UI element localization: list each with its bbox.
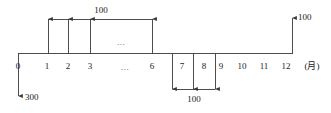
inflow-series-ellipsis: ... [117,38,125,47]
bottom-bracket-amount-label: 100 [187,95,201,104]
axis-tick-label-3: 3 [88,62,93,71]
axis-tick-label-12: 12 [282,62,291,71]
timeline-graphic [0,0,331,113]
axis-tick-label-11: 11 [260,62,269,71]
axis-tick-label-ellipsis: ... [121,63,129,72]
axis-tick-label-2: 2 [66,62,71,71]
axis-tick-label-6: 6 [150,62,155,71]
axis-unit-label: (月) [305,62,320,71]
terminal-inflow-amount-label: 100 [298,13,312,22]
axis-tick-label-1: 1 [45,62,50,71]
cash-flow-diagram: 0 1 2 3 ... 6 7 8 9 10 11 12 (月) ... 100… [0,0,331,113]
top-bracket-amount-label: 100 [94,6,108,15]
axis-tick-label-9: 9 [219,62,224,71]
axis-tick-label-7: 7 [180,62,185,71]
axis-tick-label-10: 10 [238,62,247,71]
axis-tick-label-8: 8 [202,62,207,71]
axis-tick-label-0: 0 [16,62,21,71]
initial-outflow-amount-label: 300 [25,93,39,102]
